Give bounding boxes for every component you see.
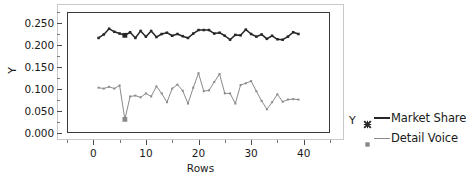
x-tick-mark-minor bbox=[330, 140, 331, 143]
data-point bbox=[160, 33, 163, 36]
data-point bbox=[145, 35, 148, 38]
legend-item[interactable]: Market Share bbox=[363, 108, 466, 128]
y-axis-title: Y bbox=[6, 67, 19, 74]
data-point bbox=[171, 88, 173, 90]
data-point bbox=[98, 87, 100, 89]
data-point bbox=[208, 29, 211, 32]
y-tick-mark bbox=[57, 67, 62, 68]
x-marker bbox=[363, 114, 372, 123]
data-point bbox=[166, 101, 168, 103]
y-tick-mark bbox=[57, 23, 62, 24]
data-point bbox=[292, 98, 294, 100]
data-point bbox=[266, 108, 268, 110]
data-point bbox=[255, 35, 257, 38]
data-point bbox=[287, 99, 289, 101]
data-point bbox=[245, 82, 247, 84]
data-point bbox=[166, 31, 169, 34]
legend-line-swatch bbox=[374, 138, 390, 139]
y-tick-mark-minor bbox=[57, 12, 60, 13]
data-point bbox=[219, 73, 221, 75]
data-point bbox=[108, 86, 110, 88]
y-tick-mark-minor bbox=[57, 100, 60, 101]
data-point bbox=[208, 89, 210, 91]
data-point bbox=[229, 92, 231, 94]
x-tick-mark-minor bbox=[120, 140, 121, 143]
data-point bbox=[176, 33, 179, 36]
data-point bbox=[150, 95, 152, 97]
y-tick-mark-minor bbox=[57, 122, 60, 123]
data-point bbox=[292, 31, 295, 33]
data-point bbox=[213, 81, 215, 83]
data-point bbox=[113, 88, 115, 90]
y-tick-label: 0.100 bbox=[24, 83, 54, 95]
legend-line-swatch bbox=[374, 117, 390, 119]
y-tick-mark bbox=[57, 111, 62, 112]
data-point bbox=[155, 85, 157, 87]
y-tick-mark bbox=[57, 45, 62, 46]
data-point bbox=[129, 31, 132, 33]
data-point bbox=[297, 99, 299, 101]
data-point bbox=[261, 100, 263, 102]
chart-figure: 0.0000.0500.1000.1500.2000.250 010203040… bbox=[0, 0, 467, 183]
data-point bbox=[229, 38, 232, 41]
x-tick-mark bbox=[304, 140, 305, 145]
data-point bbox=[198, 72, 200, 74]
data-point bbox=[250, 33, 253, 36]
data-point bbox=[134, 95, 136, 97]
plot-canvas bbox=[67, 12, 330, 133]
data-point bbox=[145, 92, 147, 94]
x-tick-mark-minor bbox=[225, 140, 226, 143]
data-point bbox=[197, 29, 200, 32]
data-point bbox=[224, 92, 226, 94]
legend-label: Market Share bbox=[391, 111, 466, 125]
data-point bbox=[276, 93, 278, 95]
y-tick-label: 0.150 bbox=[24, 61, 54, 73]
data-point bbox=[176, 84, 178, 86]
square-marker bbox=[363, 134, 372, 143]
data-point bbox=[224, 35, 227, 38]
data-point bbox=[234, 103, 236, 105]
data-point bbox=[213, 32, 216, 35]
data-point bbox=[276, 38, 279, 41]
y-tick-label: 0.050 bbox=[24, 105, 54, 117]
x-tick-label: 30 bbox=[244, 147, 257, 159]
y-tick-mark-minor bbox=[57, 78, 60, 79]
series-market-share bbox=[97, 27, 299, 41]
data-point bbox=[119, 84, 121, 86]
legend-item[interactable]: Detail Voice bbox=[363, 128, 466, 148]
data-point bbox=[218, 31, 221, 34]
data-point bbox=[255, 90, 257, 92]
data-point bbox=[103, 88, 105, 90]
data-point bbox=[281, 38, 284, 41]
data-point bbox=[171, 35, 174, 38]
data-point bbox=[250, 80, 252, 82]
data-point bbox=[240, 84, 242, 86]
data-point bbox=[139, 30, 142, 32]
data-point bbox=[181, 35, 184, 38]
data-point bbox=[134, 37, 137, 40]
data-point bbox=[187, 37, 190, 40]
data-point bbox=[192, 87, 194, 89]
data-point bbox=[266, 38, 269, 41]
data-point bbox=[271, 101, 273, 103]
data-point bbox=[140, 96, 142, 98]
data-point bbox=[113, 31, 116, 34]
data-point bbox=[234, 34, 237, 37]
y-tick-label: 0.000 bbox=[24, 127, 54, 139]
data-point bbox=[103, 33, 106, 36]
legend-entries: Market ShareDetail Voice bbox=[363, 108, 466, 148]
data-point bbox=[187, 103, 189, 105]
series-line bbox=[99, 73, 299, 119]
data-point bbox=[245, 28, 248, 31]
data-point bbox=[108, 27, 111, 30]
data-point bbox=[239, 34, 242, 37]
x-tick-mark-minor bbox=[172, 140, 173, 143]
x-tick-label: 40 bbox=[297, 147, 310, 159]
data-point bbox=[161, 92, 163, 94]
y-tick-label: 0.200 bbox=[24, 39, 54, 51]
y-axis-tick-labels: 0.0000.0500.1000.1500.2000.250 bbox=[0, 0, 54, 183]
data-point bbox=[282, 101, 284, 103]
x-tick-mark-minor bbox=[67, 140, 68, 143]
data-point bbox=[97, 37, 100, 40]
x-tick-mark bbox=[93, 140, 94, 145]
